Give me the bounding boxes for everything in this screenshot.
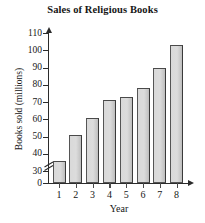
bar-year-4 xyxy=(103,100,116,183)
y-tick-label: 50 xyxy=(33,130,43,142)
y-tick-label: 80 xyxy=(33,78,43,90)
y-tick-mark xyxy=(43,50,48,51)
bar-year-5 xyxy=(120,97,133,183)
y-tick-label: 60 xyxy=(33,113,43,125)
chart-title: Sales of Religious Books xyxy=(0,4,205,15)
bar-year-1 xyxy=(53,161,66,183)
y-tick-label: 70 xyxy=(33,96,43,108)
y-tick-label: 110 xyxy=(28,27,42,39)
x-tick-label-1: 1 xyxy=(51,189,67,200)
y-tick-mark xyxy=(43,137,48,138)
x-tick-label-3: 3 xyxy=(85,189,101,200)
y-tick-label: 100 xyxy=(28,44,42,56)
x-tick-mark xyxy=(59,183,60,188)
chart-figure: Sales of Religious Books Books sold (mil… xyxy=(0,0,205,223)
bar-year-8 xyxy=(170,45,183,183)
y-tick-mark xyxy=(43,85,48,86)
x-tick-mark xyxy=(109,183,110,188)
x-tick-label-6: 6 xyxy=(135,189,151,200)
x-tick-label-2: 2 xyxy=(68,189,84,200)
bar-year-3 xyxy=(86,118,99,183)
y-tick-mark xyxy=(43,154,48,155)
x-tick-mark xyxy=(177,183,178,188)
x-tick-label-7: 7 xyxy=(152,189,168,200)
y-tick-label: 90 xyxy=(33,61,43,73)
bar-year-6 xyxy=(137,88,150,183)
y-tick-mark xyxy=(43,33,48,34)
y-tick-label: 30 xyxy=(33,165,43,177)
y-axis-title: Books sold (millions) xyxy=(14,34,24,184)
x-axis-line xyxy=(48,183,189,184)
x-axis-title: Year xyxy=(44,203,194,214)
x-tick-mark xyxy=(76,183,77,188)
x-tick-label-4: 4 xyxy=(101,189,117,200)
y-tick-mark xyxy=(43,102,48,103)
x-tick-mark xyxy=(160,183,161,188)
x-axis-arrow-icon xyxy=(188,180,194,186)
x-tick-mark xyxy=(126,183,127,188)
x-tick-mark xyxy=(93,183,94,188)
y-tick-mark xyxy=(43,68,48,69)
x-tick-label-5: 5 xyxy=(118,189,134,200)
y-tick-mark xyxy=(43,183,48,184)
y-tick-label: 40 xyxy=(33,147,43,159)
y-tick-label: 0 xyxy=(37,177,42,189)
bar-year-7 xyxy=(153,68,166,184)
y-tick-mark xyxy=(43,119,48,120)
plot-area: 030405060708090100110 12345678 xyxy=(48,28,196,183)
bar-year-2 xyxy=(69,135,82,183)
x-tick-label-8: 8 xyxy=(169,189,185,200)
x-tick-mark xyxy=(143,183,144,188)
